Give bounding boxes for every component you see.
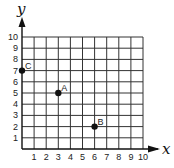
- coordinate-grid-chart: 1234567891012345678910yxABC: [0, 0, 174, 168]
- x-tick-label: 8: [116, 152, 121, 162]
- y-tick-label: 3: [13, 110, 18, 120]
- y-tick-label: 9: [13, 43, 18, 53]
- y-tick-label: 10: [8, 32, 18, 42]
- y-tick-label: 8: [13, 54, 18, 64]
- y-tick-label: 7: [13, 66, 18, 76]
- x-tick-label: 3: [56, 152, 61, 162]
- x-tick-label: 4: [68, 152, 73, 162]
- y-tick-label: 4: [13, 99, 18, 109]
- y-tick-label: 5: [13, 88, 18, 98]
- x-tick-label: 2: [44, 152, 49, 162]
- x-tick-label: 5: [80, 152, 85, 162]
- x-tick-label: 7: [104, 152, 109, 162]
- x-tick-label: 6: [92, 152, 97, 162]
- x-tick-label: 10: [138, 152, 148, 162]
- x-tick-label: 9: [128, 152, 133, 162]
- point-label: A: [61, 83, 67, 93]
- x-axis-title: x: [162, 140, 171, 158]
- x-tick-label: 1: [32, 152, 37, 162]
- y-tick-label: 2: [13, 122, 18, 132]
- point-label: C: [25, 61, 32, 71]
- y-axis-arrow-icon: [19, 17, 26, 27]
- point-label: B: [98, 117, 104, 127]
- x-axis-arrow-icon: [148, 146, 160, 153]
- y-axis-title: y: [16, 0, 26, 18]
- y-tick-label: 1: [13, 133, 18, 143]
- y-tick-label: 6: [13, 77, 18, 87]
